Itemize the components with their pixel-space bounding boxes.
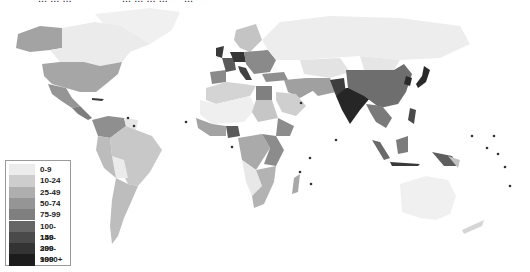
region-egypt (256, 86, 272, 100)
region-sumatra (372, 140, 390, 160)
legend-label: 10-24 (40, 175, 60, 186)
region-borneo (396, 136, 408, 154)
legend-swatch (9, 187, 35, 198)
region-argentina-chile (110, 178, 138, 244)
island-dot (127, 117, 130, 120)
region-scandinavia (234, 24, 262, 52)
region-central-asia (300, 58, 350, 78)
legend-swatch (9, 243, 35, 254)
legend-label: 50-74 (40, 198, 60, 209)
legend-swatch (9, 221, 35, 232)
legend-item: 1000+ (9, 254, 69, 265)
region-uk (216, 46, 224, 58)
legend-item: 75-99 (9, 209, 69, 220)
region-caribbean (92, 98, 104, 101)
region-madagascar (292, 174, 300, 194)
legend-label: 25-49 (40, 187, 60, 198)
island-dot (133, 125, 136, 128)
island-dot (335, 139, 338, 142)
region-nigeria (226, 126, 240, 138)
island-dot (185, 121, 188, 124)
island-dot (504, 166, 507, 169)
legend-label: 0-9 (40, 164, 52, 175)
region-central-america (72, 106, 92, 120)
region-japan (416, 66, 430, 88)
region-philippines (408, 108, 416, 124)
island-dot (309, 157, 312, 160)
legend-swatch (9, 164, 35, 175)
region-australia (400, 176, 456, 220)
legend-item: 300-999 (9, 243, 69, 254)
region-sudan (252, 100, 278, 122)
legend-swatch (9, 175, 35, 186)
island-dot (300, 102, 303, 105)
island-dot (486, 147, 489, 150)
region-alaska (16, 26, 62, 52)
legend-item: 100-149 (9, 221, 69, 232)
legend-item: 25-49 (9, 187, 69, 198)
world-map (0, 0, 530, 272)
legend-item: 10-24 (9, 175, 69, 186)
region-ethiopia (276, 118, 294, 136)
island-dot (299, 171, 302, 174)
island-dot (509, 185, 512, 188)
island-dot (310, 183, 313, 186)
legend-item: 0-9 (9, 164, 69, 175)
island-dot (493, 135, 496, 138)
legend-swatch (9, 254, 35, 265)
island-dot (497, 153, 500, 156)
legend-label: 75-99 (40, 209, 60, 220)
region-southeast-asia (366, 104, 392, 128)
island-dot (471, 135, 474, 138)
legend-swatch (9, 209, 35, 220)
region-turkey (262, 72, 288, 82)
legend-swatch (9, 198, 35, 209)
region-russia (262, 16, 470, 60)
region-new-zealand (462, 220, 484, 234)
legend-label: 1000+ (40, 254, 62, 265)
legend-item: 150-299 (9, 232, 69, 243)
legend-swatch (9, 232, 35, 243)
region-iberia (210, 70, 226, 84)
legend-item: 50-74 (9, 198, 69, 209)
region-java (390, 162, 420, 166)
legend: 0-9 10-24 25-49 50-74 75-99 100-149 150-… (5, 160, 71, 266)
island-dot (231, 146, 234, 149)
